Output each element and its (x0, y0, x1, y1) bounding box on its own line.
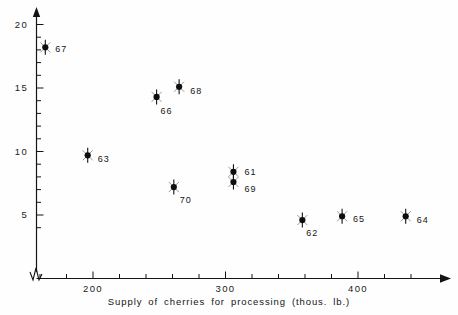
data-point-label: 65 (353, 214, 365, 224)
x-axis-tick-label: 300 (201, 283, 251, 294)
data-point-label: 64 (417, 215, 429, 225)
marker-dot (176, 84, 182, 90)
data-point-label: 66 (161, 106, 173, 116)
x-axis-tick-label: 200 (68, 283, 118, 294)
marker-dot (42, 44, 48, 50)
data-point-label: 62 (306, 228, 318, 238)
data-point-marker (174, 79, 184, 94)
data-point-marker (83, 148, 93, 163)
marker-dot (230, 169, 236, 175)
data-point-marker (169, 180, 179, 195)
marker-dot (339, 213, 345, 219)
arrow-up-icon (33, 7, 40, 17)
x-axis-title: Supply of cherries for processing (thous… (0, 296, 458, 307)
y-axis-tick-label: 20 (0, 19, 28, 30)
data-point-marker (297, 213, 307, 228)
arrow-right-icon (440, 274, 451, 282)
data-point-label: 63 (98, 154, 110, 164)
scatter-plot-figure: 510152020030040067636668706169626564 Sup… (0, 0, 458, 315)
data-point-label: 70 (180, 195, 192, 205)
data-point-marker (40, 40, 50, 55)
marker-dot (403, 213, 409, 219)
data-point-label: 69 (244, 184, 256, 194)
data-point-marker (152, 89, 162, 104)
data-point-marker (401, 209, 411, 224)
y-axis-tick-label: 5 (0, 209, 28, 220)
marker-dot (85, 152, 91, 158)
data-point-label: 68 (190, 86, 202, 96)
marker-dot (230, 179, 236, 185)
ticks-group (37, 25, 412, 279)
marker-dot (299, 217, 305, 223)
marker-dot (171, 184, 177, 190)
axes-group (30, 7, 451, 283)
y-axis-tick-label: 15 (0, 82, 28, 93)
data-point-marker (337, 209, 347, 224)
data-point-marker (228, 174, 238, 189)
marker-dot (154, 94, 160, 100)
data-point-label: 67 (55, 44, 67, 54)
data-points-group (40, 40, 410, 228)
plot-canvas (0, 0, 458, 315)
y-axis-tick-label: 10 (0, 146, 28, 157)
x-axis-tick-label: 400 (333, 283, 383, 294)
data-point-label: 61 (244, 167, 256, 177)
